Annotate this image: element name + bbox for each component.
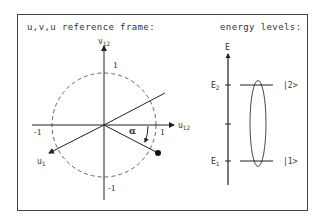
- energy-axis-label: E: [225, 43, 230, 52]
- angle-arc: [145, 126, 148, 142]
- tick-label-left: -1: [34, 128, 42, 137]
- u12-label: u12: [178, 121, 190, 131]
- v12-label: v12: [98, 37, 110, 47]
- u1-label: u1: [37, 157, 46, 167]
- energy-levels-panel: energy levels: E E2 E1 |2> |1>: [211, 22, 301, 185]
- diagonal-line: [104, 93, 165, 125]
- state-point: [155, 150, 161, 156]
- tick-label-right: 1: [160, 128, 165, 137]
- reference-frame-panel: u,v,u reference frame: v12 u12: [27, 22, 190, 200]
- tick-label-top: 1: [113, 61, 118, 70]
- e1-label: E1: [211, 157, 220, 167]
- energy-levels-title: energy levels:: [220, 22, 301, 32]
- transition-ellipse: [250, 81, 266, 167]
- diagram-canvas: u,v,u reference frame: v12 u12: [0, 0, 321, 224]
- state-1-label: |1>: [283, 157, 298, 166]
- reference-frame-title: u,v,u reference frame:: [27, 22, 155, 32]
- outer-frame: [18, 15, 308, 211]
- tick-label-bottom: -1: [108, 184, 116, 193]
- state-2-label: |2>: [283, 81, 298, 90]
- angle-alpha-label: α: [129, 126, 136, 136]
- e2-label: E2: [211, 81, 220, 91]
- u1-axis: [49, 125, 104, 153]
